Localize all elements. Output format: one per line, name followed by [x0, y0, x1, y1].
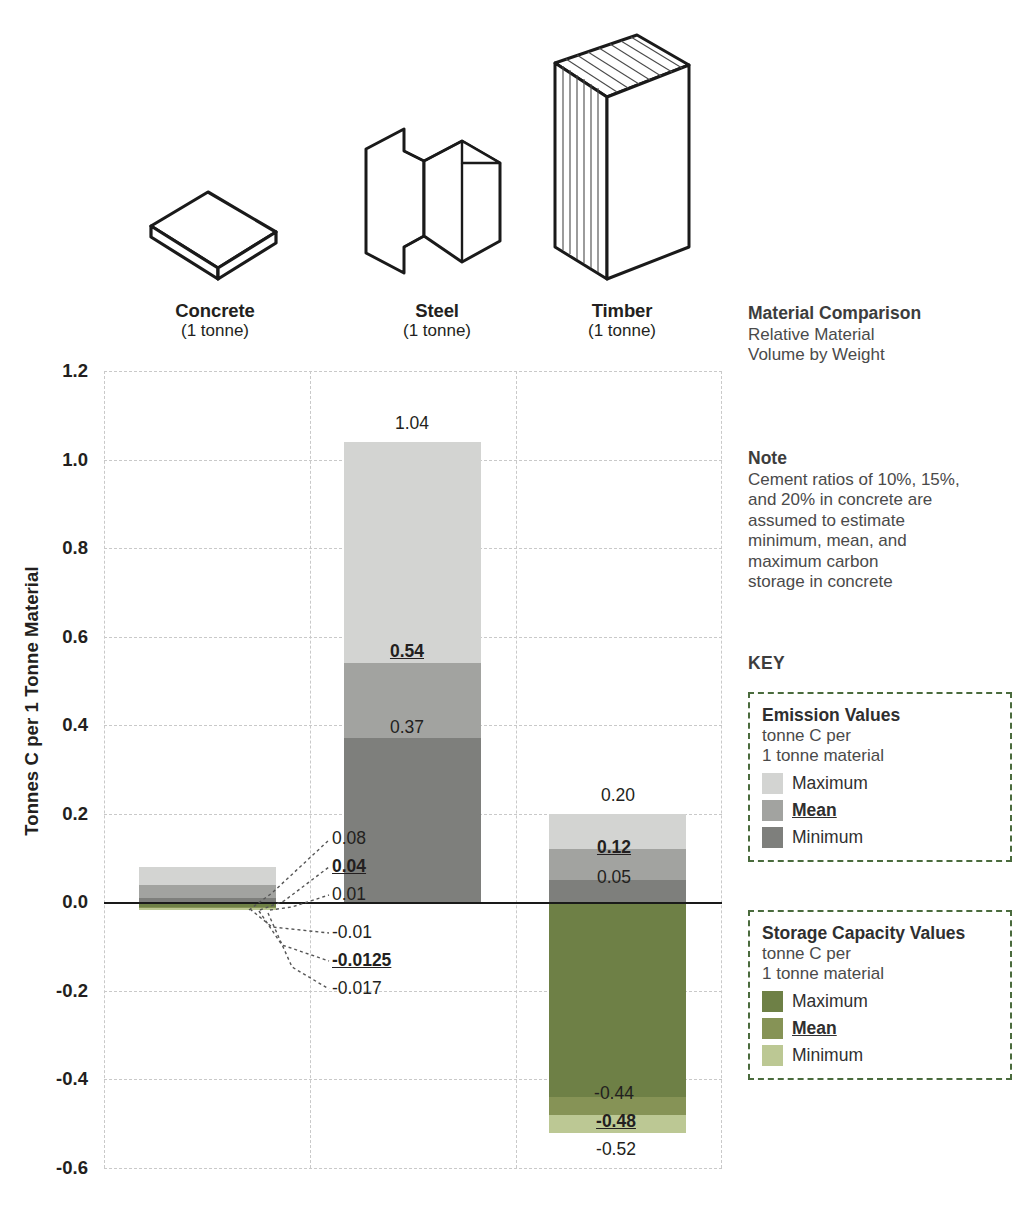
vgridline-mid1 [310, 371, 311, 1168]
y-tick-label: 0.2 [62, 803, 88, 825]
material-comparison-line1: Relative Material [748, 325, 1027, 345]
value-label-timber-storage-min: -0.52 [596, 1139, 636, 1160]
value-label-steel-emission-min: 0.37 [390, 717, 424, 738]
note-title: Note [748, 448, 1027, 469]
key-item-storage-mean[interactable]: Mean [762, 1018, 998, 1039]
side-panel: Material Comparison Relative Material Vo… [748, 0, 1027, 1216]
emission-key-title: Emission Values [762, 705, 998, 726]
value-label-timber-storage-mean: -0.48 [596, 1111, 636, 1132]
value-label-timber-storage-max: -0.44 [594, 1083, 634, 1104]
y-tick-label: -0.6 [56, 1157, 88, 1179]
plot-wrapper: 1.2 1.0 0.8 0.6 0.4 0.2 0.0 -0.2 -0.4 -0… [0, 0, 748, 1216]
storage-key-title: Storage Capacity Values [762, 923, 998, 944]
value-label-concrete-storage-max: -0.01 [332, 922, 372, 943]
value-label-concrete-emission-min: 0.01 [332, 884, 366, 905]
vgridline-right [721, 371, 722, 1168]
material-comparison-title: Material Comparison [748, 303, 1027, 324]
emission-key-sub2: 1 tonne material [762, 746, 998, 766]
chart-page: Concrete (1 tonne) Steel (1 tonne) Timbe… [0, 0, 1027, 1216]
note-line: maximum carbon [748, 552, 1027, 572]
y-tick-label: -0.4 [56, 1068, 88, 1090]
value-label-timber-emission-max: 0.20 [601, 785, 635, 806]
key-item-storage-minimum[interactable]: Minimum [762, 1045, 998, 1066]
gridline--0.6 [104, 1168, 722, 1169]
bar-segment-storage-max [549, 902, 686, 1097]
note-block: Note Cement ratios of 10%, 15%, and 20% … [748, 448, 1027, 592]
note-line: assumed to estimate [748, 511, 1027, 531]
bar-segment-emission-max [344, 442, 481, 663]
color-swatch-icon [762, 1018, 783, 1039]
y-tick-label: 0.4 [62, 714, 88, 736]
note-line: storage in concrete [748, 572, 1027, 592]
key-item-storage-maximum[interactable]: Maximum [762, 991, 998, 1012]
value-label-concrete-emission-max: 0.08 [332, 828, 366, 849]
key-heading-label: KEY [748, 653, 1027, 674]
key-item-label: Mean [792, 800, 837, 821]
note-line: Cement ratios of 10%, 15%, [748, 470, 1027, 490]
emission-values-key: Emission Values tonne C per 1 tonne mate… [748, 692, 1012, 862]
key-item-emission-minimum[interactable]: Minimum [762, 827, 998, 848]
emission-key-sub1: tonne C per [762, 726, 998, 746]
y-tick-label: 1.2 [62, 360, 88, 382]
key-item-label: Minimum [792, 1045, 863, 1066]
gridline-1.2 [104, 371, 722, 372]
zero-axis-line [104, 902, 722, 904]
note-line: minimum, mean, and [748, 531, 1027, 551]
y-tick-label: 0.0 [62, 891, 88, 913]
vgridline-left [104, 371, 105, 1168]
color-swatch-icon [762, 773, 783, 794]
material-comparison-block: Material Comparison Relative Material Vo… [748, 303, 1027, 366]
value-label-timber-emission-mean: 0.12 [597, 837, 631, 858]
value-label-concrete-storage-mean: -0.0125 [332, 950, 391, 971]
vgridline-mid2 [516, 371, 517, 1168]
color-swatch-icon [762, 800, 783, 821]
color-swatch-icon [762, 991, 783, 1012]
key-item-label: Minimum [792, 827, 863, 848]
y-tick-label: -0.2 [56, 980, 88, 1002]
key-item-label: Maximum [792, 991, 868, 1012]
value-label-steel-emission-max: 1.04 [395, 413, 429, 434]
y-tick-label: 0.6 [62, 626, 88, 648]
value-label-concrete-emission-mean: 0.04 [332, 856, 366, 877]
key-item-label: Mean [792, 1018, 837, 1039]
y-tick-label: 0.8 [62, 537, 88, 559]
key-item-emission-maximum[interactable]: Maximum [762, 773, 998, 794]
color-swatch-icon [762, 1045, 783, 1066]
value-label-steel-emission-mean: 0.54 [390, 641, 424, 662]
key-heading: KEY [748, 653, 1027, 674]
storage-capacity-values-key: Storage Capacity Values tonne C per 1 to… [748, 910, 1012, 1080]
key-item-label: Maximum [792, 773, 868, 794]
plot-area: 1.2 1.0 0.8 0.6 0.4 0.2 0.0 -0.2 -0.4 -0… [104, 371, 722, 1168]
bar-segment-emission-min [344, 738, 481, 902]
value-label-timber-emission-min: 0.05 [597, 867, 631, 888]
key-item-emission-mean[interactable]: Mean [762, 800, 998, 821]
color-swatch-icon [762, 827, 783, 848]
storage-key-sub2: 1 tonne material [762, 964, 998, 984]
note-line: and 20% in concrete are [748, 490, 1027, 510]
y-tick-label: 1.0 [62, 449, 88, 471]
material-comparison-line2: Volume by Weight [748, 345, 1027, 365]
storage-key-sub1: tonne C per [762, 944, 998, 964]
value-label-concrete-storage-min: -0.017 [332, 978, 382, 999]
